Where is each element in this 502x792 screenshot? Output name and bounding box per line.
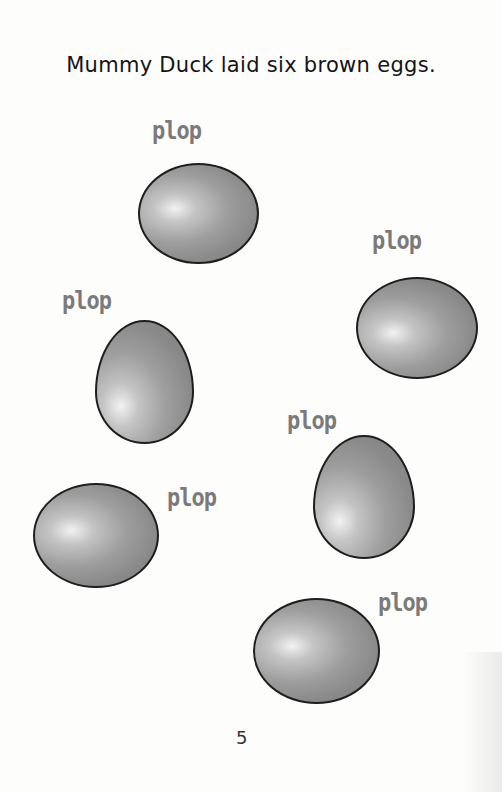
egg-illustration [253,598,380,704]
plop-label: plop [152,116,201,145]
plop-label: plop [372,226,421,255]
page-edge-shadow [462,652,502,792]
plop-label: plop [287,406,336,435]
egg-illustration [138,163,259,264]
egg-illustration [33,483,159,588]
plop-label: plop [167,483,216,512]
plop-label: plop [62,286,111,315]
page-number: 5 [236,727,247,748]
plop-label: plop [378,588,427,617]
storybook-page: Mummy Duck laid six brown eggs. plopplop… [0,0,502,792]
story-sentence: Mummy Duck laid six brown eggs. [0,53,502,77]
egg-illustration [356,277,478,379]
egg-illustration [313,435,415,559]
egg-illustration [95,320,194,444]
